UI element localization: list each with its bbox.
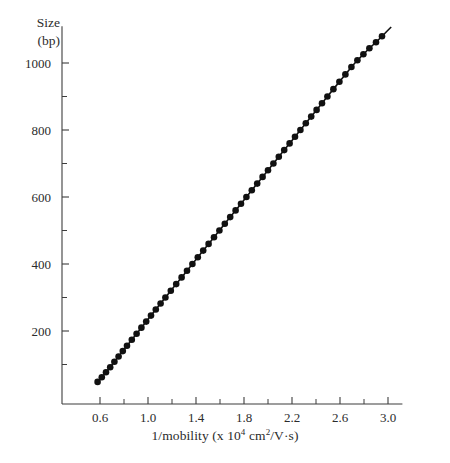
y-tick-label: 600 bbox=[32, 190, 52, 205]
x-tick-label: 1.8 bbox=[236, 410, 252, 425]
data-point-marker bbox=[178, 274, 185, 281]
data-point-marker bbox=[265, 167, 272, 174]
data-point-marker bbox=[373, 39, 380, 46]
data-point-marker bbox=[120, 348, 127, 355]
data-point-marker bbox=[227, 214, 234, 221]
data-point-marker bbox=[276, 154, 283, 161]
data-point-marker bbox=[138, 324, 145, 331]
data-point-marker bbox=[168, 288, 175, 295]
chart-figure: Size (bp) 20040060080010000.61.01.41.82.… bbox=[0, 0, 450, 463]
data-point-marker bbox=[342, 71, 349, 78]
data-point-marker bbox=[366, 45, 373, 52]
data-point-marker bbox=[270, 160, 277, 167]
x-tick-label: 0.6 bbox=[92, 410, 109, 425]
x-tick-label: 3.0 bbox=[380, 410, 396, 425]
data-point-marker bbox=[319, 100, 326, 107]
x-tick-label: 2.2 bbox=[284, 410, 300, 425]
data-point-marker bbox=[360, 51, 367, 58]
data-point-marker bbox=[211, 234, 218, 241]
data-point-marker bbox=[336, 78, 343, 85]
data-point-marker bbox=[297, 127, 304, 134]
data-point-marker bbox=[111, 359, 118, 366]
data-point-marker bbox=[115, 353, 122, 360]
data-point-marker bbox=[173, 281, 180, 288]
x-axis-title-mid: cm bbox=[245, 428, 265, 443]
data-point-marker bbox=[195, 254, 202, 261]
y-tick-label: 1000 bbox=[25, 56, 51, 71]
data-point-marker bbox=[286, 140, 293, 147]
x-tick-label: 1.4 bbox=[188, 410, 205, 425]
data-point-marker bbox=[330, 86, 337, 93]
data-point-marker bbox=[184, 267, 191, 274]
y-tick-label: 200 bbox=[32, 324, 52, 339]
data-point-marker bbox=[148, 312, 155, 319]
data-point-marker bbox=[103, 369, 110, 376]
data-point-marker bbox=[216, 227, 223, 234]
data-point-marker bbox=[99, 374, 106, 381]
data-point-marker bbox=[129, 336, 136, 343]
data-point-marker bbox=[124, 342, 131, 349]
data-point-marker bbox=[313, 107, 320, 114]
data-point-marker bbox=[259, 174, 266, 181]
data-point-marker bbox=[348, 64, 355, 71]
data-point-marker bbox=[238, 200, 245, 207]
data-point-marker bbox=[379, 33, 386, 40]
data-point-marker bbox=[222, 221, 229, 228]
plot-canvas: 20040060080010000.61.01.41.82.22.63.0 bbox=[0, 0, 450, 463]
x-axis-title-prefix: 1/mobility (x 10 bbox=[152, 428, 241, 443]
data-point-marker bbox=[303, 120, 310, 127]
x-tick-label: 2.6 bbox=[332, 410, 349, 425]
data-point-marker bbox=[354, 57, 361, 64]
data-point-marker bbox=[254, 180, 261, 187]
data-point-marker bbox=[281, 147, 288, 154]
data-point-marker bbox=[308, 113, 315, 120]
y-tick-label: 800 bbox=[32, 123, 52, 138]
data-series-group bbox=[94, 27, 391, 385]
data-point-marker bbox=[107, 364, 114, 371]
x-axis-title-suffix: /V·s) bbox=[270, 428, 298, 443]
data-point-marker bbox=[162, 294, 169, 301]
ticks-group bbox=[62, 63, 388, 404]
data-point-marker bbox=[200, 247, 207, 254]
data-point-marker bbox=[292, 133, 299, 140]
data-point-marker bbox=[189, 261, 196, 268]
data-point-marker bbox=[153, 306, 160, 313]
data-point-marker bbox=[133, 330, 140, 337]
data-point-marker bbox=[324, 93, 331, 100]
x-axis-title: 1/mobility (x 104 cm2/V·s) bbox=[0, 428, 450, 444]
data-point-marker bbox=[157, 300, 164, 307]
data-point-marker bbox=[205, 241, 212, 248]
x-tick-label: 1.0 bbox=[140, 410, 156, 425]
data-point-marker bbox=[232, 207, 239, 214]
y-tick-label: 400 bbox=[32, 257, 52, 272]
data-point-marker bbox=[143, 318, 150, 325]
data-point-marker bbox=[243, 194, 250, 201]
data-point-marker bbox=[249, 187, 256, 194]
